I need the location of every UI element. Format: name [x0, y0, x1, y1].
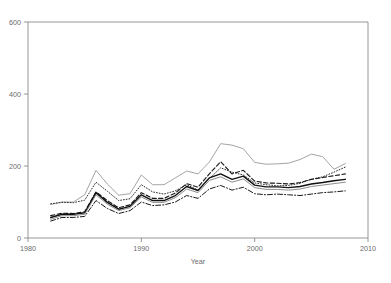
- x-tick-label: 2010: [360, 244, 376, 253]
- x-tick-label: 2000: [247, 244, 263, 253]
- x-axis-ticks: 1980199020002010: [20, 238, 376, 253]
- x-axis-title: Year: [191, 257, 206, 266]
- x-tick-label: 1990: [133, 244, 149, 253]
- x-tick-label: 1980: [20, 244, 36, 253]
- y-tick-label: 600: [9, 18, 21, 27]
- data-series-group: [51, 144, 346, 221]
- plot-frame: [28, 22, 368, 238]
- line-chart: 0200400600 1980199020002010 Year: [0, 0, 391, 283]
- y-tick-label: 400: [9, 90, 21, 99]
- chart-container: 0200400600 1980199020002010 Year: [0, 0, 391, 283]
- y-axis-ticks: 0200400600: [9, 18, 28, 243]
- axis-frame: [28, 22, 368, 238]
- y-tick-label: 0: [17, 234, 21, 243]
- y-tick-label: 200: [9, 162, 21, 171]
